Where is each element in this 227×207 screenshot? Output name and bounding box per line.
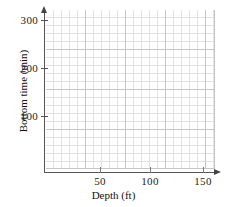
chart-figure: 300 200 100 50 100 150 Depth (ft) Bottom…: [0, 0, 227, 207]
plot-grid-area: [46, 10, 215, 169]
x-tick-mark: [150, 167, 151, 173]
y-axis-arrow-icon: [41, 6, 47, 13]
y-tick-mark: [41, 68, 48, 69]
x-axis-title: Depth (ft): [0, 189, 227, 201]
x-tick-label: 150: [183, 175, 223, 187]
x-axis-line: [44, 172, 217, 173]
y-axis-title: Bottom time (min): [17, 50, 29, 133]
y-axis-title-wrapper: Bottom time (min): [13, 21, 31, 161]
x-tick-mark: [203, 167, 204, 173]
x-tick-label: 50: [80, 175, 120, 187]
y-tick-mark: [41, 20, 48, 21]
y-tick-mark: [41, 116, 48, 117]
x-tick-mark: [100, 167, 101, 173]
x-tick-label: 100: [130, 175, 170, 187]
y-axis-line: [44, 12, 45, 173]
